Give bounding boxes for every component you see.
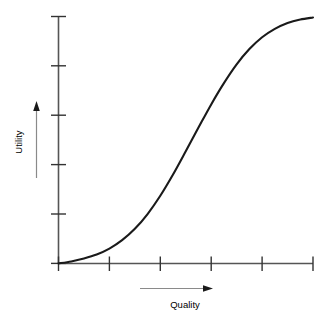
utility-quality-chart: Utility Quality [0,0,329,325]
x-axis-label-group: Quality [140,285,213,310]
x-axis-label: Quality [170,299,200,310]
y-axis-label-group: Utility [13,101,40,178]
utility-curve [59,17,314,263]
y-axis-group [51,16,66,264]
x-axis-group [59,257,314,272]
y-axis-label: Utility [13,130,24,153]
chart-canvas: Utility Quality [0,0,329,325]
x-axis-arrow-head [203,285,213,292]
y-axis-arrow-head [33,101,40,111]
data-series-utility-curve [59,17,314,263]
